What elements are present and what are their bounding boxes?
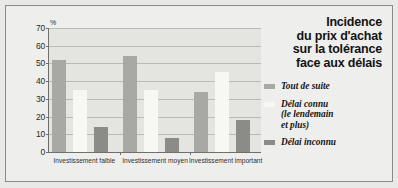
chart-figure: % 010203040506070Investissement faibleIn… [0,0,398,188]
gridline [49,28,261,29]
y-axis-tick-label: 0 [40,147,45,157]
x-axis-tick-label: Investissement important [189,157,262,164]
x-axis-tick-label: Investissement moyen [122,157,188,164]
chart-title-line: sur la tolérance [264,43,382,57]
chart-legend: Tout de suiteDélai connu(le lendemainet … [264,81,382,147]
legend-label-line: (le lendemain [281,109,333,119]
y-axis-tick-mark [46,46,49,47]
legend-label: Délai inconnu [281,137,336,147]
gridline [49,46,261,47]
y-axis-tick-label: 40 [36,76,45,86]
x-axis-tick-mark [190,152,191,155]
bar [123,56,137,152]
gridline [49,81,261,82]
bar [94,127,108,152]
y-axis-tick-label: 30 [36,94,45,104]
y-axis-tick-mark [46,63,49,64]
legend-label: Délai connu(le lendemainet plus) [281,99,333,130]
bar [73,90,87,152]
chart-title-line: du prix d'achat [264,30,382,44]
y-axis-tick-mark [46,28,49,29]
y-axis-tick-mark [46,117,49,118]
y-axis-tick-label: 50 [36,58,45,68]
legend-item[interactable]: Tout de suite [264,81,382,91]
y-axis-tick-label: 70 [36,23,45,33]
legend-label-line: et plus) [281,120,333,130]
legend-item[interactable]: Délai inconnu [264,137,382,147]
bar [194,92,208,152]
chart-title: Incidencedu prix d'achatsur la tolérance… [264,16,382,70]
info-panel: Incidencedu prix d'achatsur la tolérance… [264,16,382,154]
y-axis-tick-mark [46,134,49,135]
bar [236,120,250,152]
chart-title-line: face aux délais [264,57,382,71]
bar [165,138,179,152]
bar [215,72,229,152]
gridline [49,63,261,64]
plot-area-wrapper: % 010203040506070Investissement faibleIn… [22,14,270,174]
figure-frame: % 010203040506070Investissement faibleIn… [5,5,393,182]
y-axis-unit-label: % [50,19,56,26]
y-axis-tick-label: 60 [36,41,45,51]
legend-label: Tout de suite [281,81,330,91]
bar [52,60,66,152]
legend-swatch-icon [264,102,275,107]
bar [144,90,158,152]
legend-label-line: Délai connu [281,99,333,109]
legend-swatch-icon [264,84,275,89]
legend-item[interactable]: Délai connu(le lendemainet plus) [264,99,382,130]
chart-title-line: Incidence [264,16,382,30]
y-axis-tick-label: 10 [36,129,45,139]
y-axis-tick-mark [46,81,49,82]
plot-area: 010203040506070Investissement faibleInve… [48,28,261,153]
y-axis-tick-mark [46,152,49,153]
y-axis-tick-label: 20 [36,112,45,122]
x-axis-tick-mark [120,152,121,155]
legend-label-line: Délai inconnu [281,137,336,147]
legend-swatch-icon [264,140,275,145]
x-axis-tick-label: Investissement faible [54,157,116,164]
legend-label-line: Tout de suite [281,81,330,91]
y-axis-tick-mark [46,99,49,100]
